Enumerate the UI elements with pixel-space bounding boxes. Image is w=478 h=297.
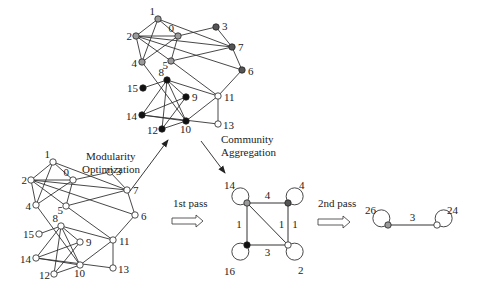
original-edges <box>31 162 135 274</box>
node-label: 2 <box>22 174 28 186</box>
phase1-community-graph: 0123456789101112131415 <box>126 5 254 136</box>
node-circle-icon <box>110 265 116 271</box>
phase1-nodes: 0123456789101112131415 <box>126 5 254 136</box>
community-node-icon <box>285 200 291 206</box>
graph-node: 3 <box>213 20 228 32</box>
graph-edge <box>80 240 113 265</box>
node-label: 1 <box>45 148 51 160</box>
node-label: 4 <box>132 57 138 69</box>
pass2-aggregated-graph: 32624 <box>365 204 459 228</box>
graph-node: 5 <box>163 58 175 71</box>
node-label: 12 <box>147 124 158 136</box>
node-circle-icon <box>215 93 221 99</box>
node-circle-icon <box>159 126 165 132</box>
node-circle-icon <box>213 24 219 30</box>
edge-weight-label: 1 <box>236 218 242 230</box>
edge-weight-label: 4 <box>265 189 271 201</box>
graph-node: 15 <box>127 82 146 94</box>
graph-node: 14 <box>126 110 145 122</box>
graph-edge <box>66 206 113 240</box>
community-aggregation-step: Community Aggregation <box>201 133 276 173</box>
node-circle-icon <box>36 231 42 237</box>
first-pass-step: 1st pass <box>172 197 208 227</box>
node-circle-icon <box>155 16 161 22</box>
graph-edge <box>31 180 36 205</box>
graph-node: 1 <box>150 5 162 22</box>
graph-node: 1 <box>45 148 57 165</box>
node-circle-icon <box>140 85 146 91</box>
node-circle-icon <box>63 203 69 209</box>
node-label: 3 <box>222 20 228 32</box>
community-node-icon <box>244 242 250 248</box>
node-circle-icon <box>139 59 145 65</box>
node-label: 8 <box>53 212 59 224</box>
node-circle-icon <box>51 271 57 277</box>
node-label: 1 <box>150 5 156 17</box>
first-pass-caption: 1st pass <box>173 197 208 209</box>
modularity-optimization-step: Modularity Optimization <box>82 140 168 191</box>
node-label: 13 <box>223 119 235 131</box>
graph-node: 7 <box>229 41 244 53</box>
node-circle-icon <box>132 212 138 218</box>
node-circle-icon <box>229 44 235 50</box>
graph-node: 5 <box>58 203 70 216</box>
edge-weight-label: 3 <box>265 246 271 258</box>
node-circle-icon <box>175 33 181 39</box>
community-node-label: 4 <box>299 179 305 191</box>
node-label: 13 <box>118 263 130 275</box>
node-label: 7 <box>238 41 244 53</box>
node-label: 5 <box>58 204 64 216</box>
node-circle-icon <box>183 94 189 100</box>
node-circle-icon <box>239 67 245 73</box>
graph-node: 7 <box>124 184 139 196</box>
graph-edge <box>171 47 232 61</box>
node-label: 14 <box>20 253 32 265</box>
graph-edge <box>143 80 167 88</box>
node-circle-icon <box>33 202 39 208</box>
edge-weight-label: 1 <box>279 218 285 230</box>
node-circle-icon <box>124 187 130 193</box>
community-node-icon <box>244 200 250 206</box>
hollow-right-arrow-icon <box>318 216 350 228</box>
graph-node: 13 <box>215 119 235 131</box>
graph-edge <box>66 190 127 206</box>
node-label: 10 <box>74 267 86 279</box>
modularity-caption-line2: Optimization <box>82 163 141 175</box>
node-circle-icon <box>168 58 174 64</box>
graph-node: 12 <box>39 269 57 281</box>
node-label: 11 <box>119 235 130 247</box>
node-circle-icon <box>110 237 116 243</box>
node-circle-icon <box>133 33 139 39</box>
graph-node: 4 <box>26 200 40 212</box>
community-node-icon <box>385 222 391 228</box>
graph-node: 4 <box>132 57 146 69</box>
node-label: 4 <box>26 200 32 212</box>
louvain-diagram: 0123456789101112131415 01234567891011121… <box>0 0 478 297</box>
aggregation-caption-line1: Community <box>221 133 274 145</box>
second-pass-step: 2nd pass <box>318 197 356 228</box>
node-circle-icon <box>77 239 83 245</box>
node-circle-icon <box>139 112 145 118</box>
node-circle-icon <box>50 159 56 165</box>
community-node-label: 26 <box>365 204 377 216</box>
node-label: 15 <box>127 82 139 94</box>
edge-weight-label: 3 <box>410 211 416 223</box>
graph-edge <box>162 80 167 129</box>
node-label: 9 <box>192 91 198 103</box>
node-circle-icon <box>58 223 64 229</box>
node-label: 10 <box>180 123 192 135</box>
pass1-aggregated-graph: 41113144162 <box>224 179 305 277</box>
node-circle-icon <box>70 177 76 183</box>
node-label: 2 <box>127 30 133 42</box>
community-node-icon <box>285 242 291 248</box>
node-label: 11 <box>224 91 235 103</box>
graph-node: 15 <box>23 228 42 240</box>
phase1-edges <box>136 19 242 129</box>
node-label: 9 <box>86 236 92 248</box>
community-node-label: 16 <box>224 265 236 277</box>
node-label: 0 <box>169 22 175 34</box>
community-node-icon <box>434 222 440 228</box>
node-label: 14 <box>126 110 138 122</box>
graph-edge <box>186 96 218 121</box>
graph-node: 14 <box>20 253 39 265</box>
